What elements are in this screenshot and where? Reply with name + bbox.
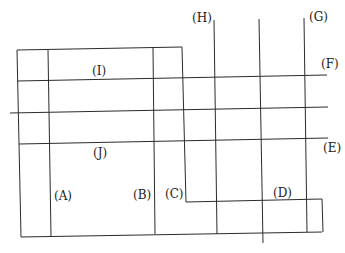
top-border-line bbox=[17, 47, 182, 50]
line-c-vertical bbox=[182, 47, 186, 202]
line-e bbox=[19, 138, 328, 144]
line-middle-horizontal bbox=[10, 107, 328, 113]
line-g bbox=[304, 18, 307, 232]
label-c: (C) bbox=[165, 187, 184, 201]
label-f: (F) bbox=[321, 57, 339, 71]
label-b: (B) bbox=[133, 188, 151, 202]
line-d-vertical bbox=[259, 19, 263, 243]
line-c-horizontal bbox=[186, 199, 322, 202]
label-g: (G) bbox=[309, 10, 328, 24]
right-end-line bbox=[322, 199, 323, 232]
label-j: (J) bbox=[93, 146, 107, 160]
label-a: (A) bbox=[54, 189, 72, 203]
label-h: (H) bbox=[192, 11, 212, 25]
bottom-border-line bbox=[21, 232, 322, 237]
line-h bbox=[214, 20, 217, 234]
label-e: (E) bbox=[323, 141, 341, 155]
line-f bbox=[17, 75, 327, 81]
label-i: (I) bbox=[92, 64, 106, 78]
label-d: (D) bbox=[273, 186, 292, 200]
line-diagram: (H) (G) (F) (I) (J) (E) (A) (B) (C) (D) bbox=[0, 0, 345, 253]
